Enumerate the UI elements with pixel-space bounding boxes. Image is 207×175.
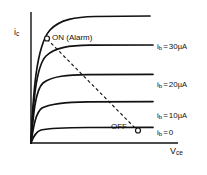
off-point-label: OFF	[111, 123, 127, 131]
y-axis-label: ic	[14, 27, 19, 37]
x-axis-label: Vce	[170, 146, 183, 156]
equals-sign: =	[162, 80, 169, 89]
transistor-characteristic-figure: ic Vce ON (Alarm) OFF ib=30µA ib=20µA ib…	[0, 0, 207, 175]
on-point-marker	[45, 36, 50, 41]
y-axis-subscript: c	[16, 30, 19, 37]
curve-unit: µA	[178, 111, 187, 120]
equals-sign: =	[162, 128, 169, 137]
off-point-marker	[136, 128, 141, 133]
equals-sign: =	[162, 42, 169, 51]
curve-label-ib-0: ib=0	[157, 129, 173, 137]
curve-label-ib-20ua: ib=20µA	[157, 81, 187, 89]
equals-sign: =	[162, 111, 169, 120]
curve-label-ib-30ua: ib=30µA	[157, 43, 187, 51]
curve-value: 30	[169, 42, 178, 51]
curve-label-ib-10ua: ib=10µA	[157, 112, 187, 120]
curve-value: 0	[169, 128, 173, 137]
curve-value: 20	[169, 80, 178, 89]
curve-ib-0	[31, 127, 153, 143]
curve-value: 10	[169, 111, 178, 120]
load-line	[47, 39, 137, 130]
curve-unit: µA	[178, 80, 187, 89]
curve-unit: µA	[178, 42, 187, 51]
on-point-label: ON (Alarm)	[52, 34, 92, 42]
x-axis-subscript: ce	[176, 149, 183, 156]
curve-ib-10ua	[31, 102, 153, 143]
